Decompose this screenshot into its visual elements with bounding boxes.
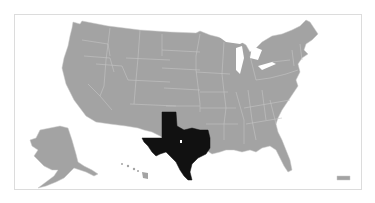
state-puerto-rico[interactable] (337, 176, 350, 180)
us-map (0, 0, 375, 203)
state-alaska[interactable] (30, 126, 98, 188)
texas-marker (180, 140, 182, 143)
state-hawaii[interactable] (121, 163, 148, 179)
